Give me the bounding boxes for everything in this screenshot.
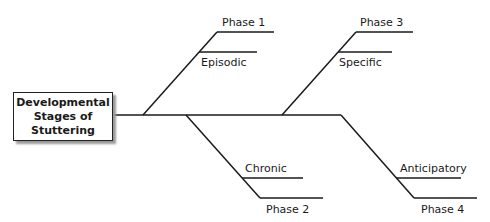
chronic-label: Chronic xyxy=(245,163,287,175)
branch-phase-1 xyxy=(143,32,217,115)
branch-phase-4 xyxy=(341,115,414,198)
episodic-label: Episodic xyxy=(201,57,247,69)
branch-phase-2 xyxy=(186,115,260,198)
root-line-1: Developmental xyxy=(16,96,110,110)
phase-2-label: Phase 2 xyxy=(266,204,309,216)
root-node: Developmental Stages of Stuttering xyxy=(13,92,113,141)
phase-3-label: Phase 3 xyxy=(360,17,403,29)
phase-1-label: Phase 1 xyxy=(222,17,265,29)
branch-phase-3 xyxy=(282,32,356,115)
specific-label: Specific xyxy=(339,57,382,69)
root-line-2: Stages of xyxy=(16,110,110,124)
anticipatory-label: Anticipatory xyxy=(400,163,467,175)
root-line-3: Stuttering xyxy=(16,124,110,138)
phase-4-label: Phase 4 xyxy=(421,204,464,216)
